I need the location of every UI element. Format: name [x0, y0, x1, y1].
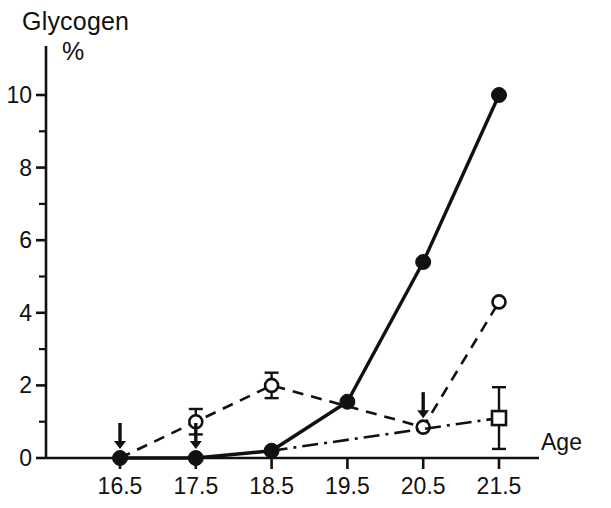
y-tick-label: 0: [19, 445, 32, 471]
x-tick-label: 17.5: [173, 473, 218, 499]
down-arrow-head: [190, 441, 202, 449]
x-tick-label: 20.5: [401, 473, 446, 499]
x-tick-label: 21.5: [477, 473, 522, 499]
x-axis-title: Age: [541, 429, 582, 455]
data-point-filled-circle: [416, 254, 431, 269]
data-point-open-circle: [493, 295, 506, 308]
glycogen-line-chart: Glycogen%Age024681016.517.518.519.520.52…: [0, 0, 611, 508]
y-axis-title-percent: %: [62, 37, 84, 65]
y-tick-label: 4: [19, 300, 32, 326]
series-line-dashed-open-circle: [120, 302, 499, 458]
down-arrow-head: [114, 441, 126, 449]
data-point-filled-circle: [492, 88, 507, 103]
x-tick-label: 18.5: [249, 473, 294, 499]
y-tick-label: 10: [6, 82, 32, 108]
data-point-open-square: [492, 411, 506, 425]
down-arrow-head: [417, 410, 429, 418]
y-tick-label: 6: [19, 227, 32, 253]
data-point-open-circle: [265, 379, 278, 392]
chart-figure: Glycogen%Age024681016.517.518.519.520.52…: [0, 0, 611, 508]
y-tick-label: 8: [19, 155, 32, 181]
series-line-dashdot-open-square: [272, 418, 499, 451]
x-tick-label: 16.5: [98, 473, 143, 499]
x-tick-label: 19.5: [325, 473, 370, 499]
series-dashed-open-circle: [120, 295, 506, 458]
series-line-solid-filled-circle: [120, 95, 499, 458]
y-axis-title-line1: Glycogen: [22, 7, 129, 35]
y-tick-label: 2: [19, 372, 32, 398]
data-point-filled-circle: [188, 451, 203, 466]
series-solid-filled-circle: [113, 88, 507, 466]
